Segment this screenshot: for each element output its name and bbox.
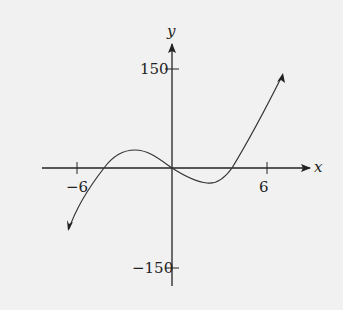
y-tick-label-150: 150 [140,60,169,78]
x-tick-label-6: 6 [259,178,269,196]
cubic-graph: y x −6 6 150 −150 [0,0,343,310]
x-tick-label-neg6: −6 [66,178,88,196]
curve-arrow-top [277,73,285,83]
y-axis-label: y [166,22,176,40]
cubic-curve [69,76,282,229]
x-axis-label: x [314,158,323,176]
y-tick-label-neg150: −150 [132,259,173,277]
